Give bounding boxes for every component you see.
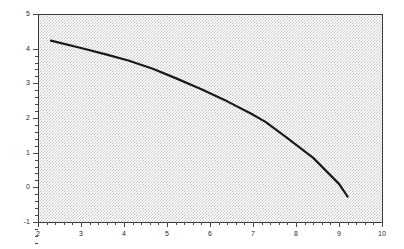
- x-tick-label-6: 6: [200, 230, 220, 238]
- y-minor-tick: [35, 132, 38, 133]
- x-minor-tick: [244, 222, 245, 225]
- x-tick-7: [253, 222, 254, 227]
- x-minor-tick: [356, 222, 357, 225]
- x-minor-tick: [348, 222, 349, 225]
- x-minor-tick: [184, 222, 185, 225]
- x-tick-6: [210, 222, 211, 227]
- x-minor-tick: [262, 222, 263, 225]
- x-tick-4: [124, 222, 125, 227]
- x-minor-tick: [47, 222, 48, 225]
- y-minor-tick: [35, 69, 38, 70]
- x-tick-10: [382, 222, 383, 227]
- y-tick-label--1: -1: [6, 218, 30, 226]
- x-minor-tick: [72, 222, 73, 225]
- line-chart: -10123452345678910: [0, 0, 404, 249]
- y-tick-label-4: 4: [6, 45, 30, 53]
- x-minor-tick: [64, 222, 65, 225]
- y-tick-5: [33, 14, 38, 15]
- y-minor-tick: [35, 146, 38, 147]
- y-tick-1: [33, 153, 38, 154]
- x-minor-tick: [141, 222, 142, 225]
- plot-line-svg: [38, 14, 382, 222]
- y-tick-label-1: 1: [6, 149, 30, 157]
- x-minor-tick: [365, 222, 366, 225]
- x-minor-tick: [133, 222, 134, 225]
- x-tick-9: [339, 222, 340, 227]
- x-tick-label-5: 5: [157, 230, 177, 238]
- y-tick-label-2: 2: [6, 114, 30, 122]
- y-minor-tick: [35, 56, 38, 57]
- y-axis-line: [38, 14, 39, 223]
- x-minor-tick: [150, 222, 151, 225]
- x-minor-tick: [158, 222, 159, 225]
- y-minor-tick: [35, 90, 38, 91]
- y-tick-0: [33, 187, 38, 188]
- x-tick-8: [296, 222, 297, 227]
- x-minor-tick: [270, 222, 271, 225]
- x-minor-tick: [55, 222, 56, 225]
- y-minor-tick: [35, 97, 38, 98]
- x-tick-label-9: 9: [329, 230, 349, 238]
- y-minor-tick: [35, 215, 38, 216]
- x-minor-tick: [219, 222, 220, 225]
- x-tick-label-8: 8: [286, 230, 306, 238]
- x-minor-tick: [287, 222, 288, 225]
- y-tick-label-0: 0: [6, 183, 30, 191]
- y-tick-label-3: 3: [6, 79, 30, 87]
- y-minor-tick: [35, 160, 38, 161]
- y-minor-tick: [35, 104, 38, 105]
- x-minor-tick: [279, 222, 280, 225]
- x-minor-tick: [107, 222, 108, 225]
- x-minor-tick: [373, 222, 374, 225]
- y-minor-tick: [35, 167, 38, 168]
- x-tick-label-10: 10: [372, 230, 392, 238]
- plot-top-border: [38, 14, 383, 15]
- x-minor-tick: [313, 222, 314, 225]
- y-minor-tick: [35, 208, 38, 209]
- x-tick-label-3: 3: [71, 230, 91, 238]
- y-minor-tick: [35, 201, 38, 202]
- x-minor-tick: [193, 222, 194, 225]
- x-tick-label-4: 4: [114, 230, 134, 238]
- y-minor-tick: [35, 180, 38, 181]
- y-tick-3: [33, 83, 38, 84]
- x-minor-tick: [201, 222, 202, 225]
- plot-right-border: [382, 14, 383, 223]
- x-minor-tick: [176, 222, 177, 225]
- y-tick-4: [33, 49, 38, 50]
- x-tick-3: [81, 222, 82, 227]
- x-tick-2: [38, 222, 39, 227]
- x-minor-tick: [98, 222, 99, 225]
- x-minor-tick: [227, 222, 228, 225]
- data-series-line: [51, 41, 348, 197]
- x-tick-label-2: 2: [28, 230, 48, 238]
- x-minor-tick: [322, 222, 323, 225]
- y-minor-tick: [35, 111, 38, 112]
- y-minor-tick: [35, 76, 38, 77]
- x-minor-tick: [90, 222, 91, 225]
- x-tick-5: [167, 222, 168, 227]
- y-tick-label-5: 5: [6, 10, 30, 18]
- y-minor-tick: [35, 63, 38, 64]
- y-minor-tick: [35, 139, 38, 140]
- x-tick-label-7: 7: [243, 230, 263, 238]
- y-minor-tick: [35, 194, 38, 195]
- y-minor-tick: [35, 125, 38, 126]
- plot-area: [38, 14, 382, 222]
- x-minor-tick: [305, 222, 306, 225]
- y-minor-tick: [35, 243, 38, 244]
- x-minor-tick: [330, 222, 331, 225]
- x-minor-tick: [115, 222, 116, 225]
- y-tick-2: [33, 118, 38, 119]
- y-minor-tick: [35, 173, 38, 174]
- x-minor-tick: [236, 222, 237, 225]
